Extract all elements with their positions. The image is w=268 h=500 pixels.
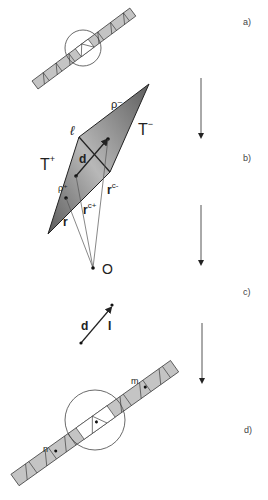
- panel-c-dipole: d I: [79, 303, 113, 344]
- edge-label: ℓ: [70, 123, 75, 138]
- rho-plus-label: ρ⁺: [58, 183, 68, 193]
- svg-text:rc+: rc+: [83, 201, 97, 217]
- d-label: d: [79, 152, 86, 166]
- panel-label-d: d): [244, 425, 252, 435]
- rho-minus-label: ρ⁻: [111, 98, 123, 110]
- i-label: I: [108, 319, 111, 333]
- d-label-c: d: [81, 319, 88, 333]
- n-label: n: [43, 444, 48, 454]
- svg-text:rc-: rc-: [107, 181, 119, 197]
- r-label: r: [63, 215, 68, 229]
- panel-a-strip: [32, 8, 136, 89]
- panel-label-c: c): [243, 287, 251, 297]
- panel-label-a: a): [243, 17, 251, 27]
- panel-label-b: b): [243, 153, 251, 163]
- rwg-diagram: ℓ ρ⁻ T− T+ ρ⁺ d r rc+ rc- O d I n m: [0, 0, 268, 500]
- panel-b-rwg: ℓ ρ⁻ T− T+ ρ⁺ d r rc+ rc- O: [40, 84, 153, 277]
- m-label: m: [131, 376, 139, 386]
- origin-label: O: [102, 261, 113, 277]
- panel-d-strip: n m: [11, 360, 179, 485]
- svg-text:T+: T+: [40, 154, 55, 173]
- svg-text:T−: T−: [138, 119, 153, 138]
